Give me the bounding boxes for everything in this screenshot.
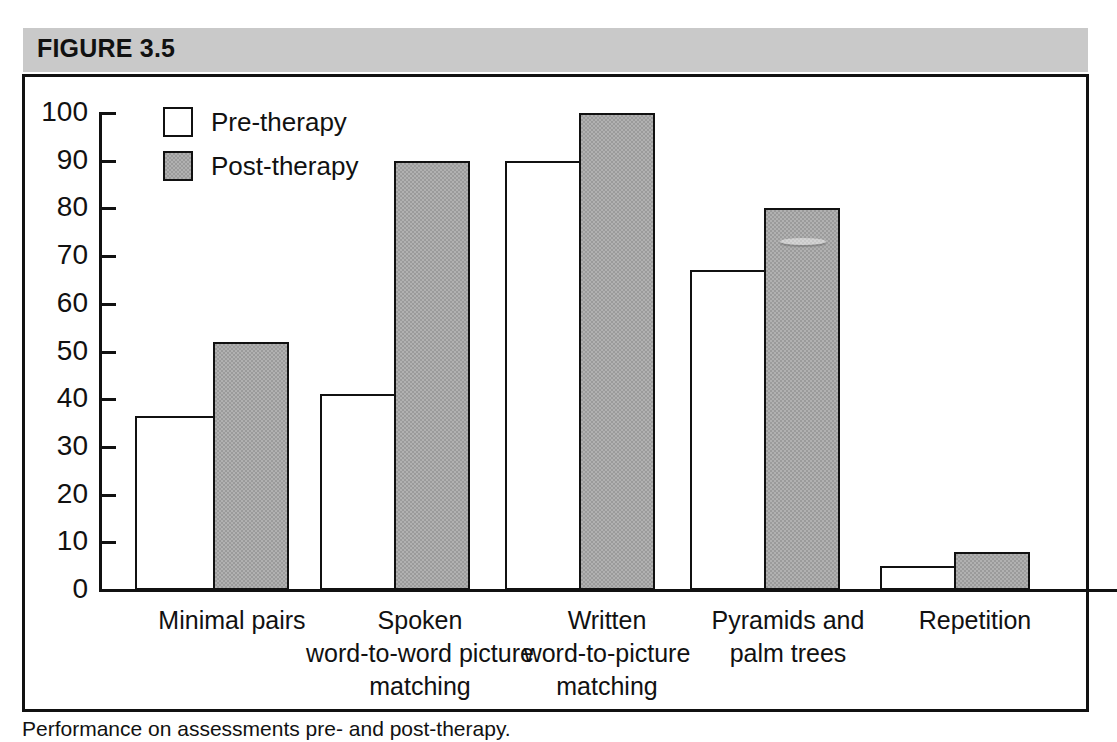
legend-swatch-post-therapy-icon bbox=[163, 151, 193, 181]
legend-label-pre-therapy: Pre-therapy bbox=[211, 109, 347, 135]
chart-legend: Pre-therapy Post-therapy bbox=[163, 100, 358, 188]
figure-header-band bbox=[23, 28, 1088, 72]
legend-item-post-therapy: Post-therapy bbox=[163, 144, 358, 188]
figure-caption: Performance on assessments pre- and post… bbox=[22, 716, 1089, 742]
legend-label-post-therapy: Post-therapy bbox=[211, 153, 358, 179]
legend-item-pre-therapy: Pre-therapy bbox=[163, 100, 358, 144]
figure-header-label: FIGURE 3.5 bbox=[37, 36, 175, 61]
legend-swatch-pre-therapy-icon bbox=[163, 107, 193, 137]
